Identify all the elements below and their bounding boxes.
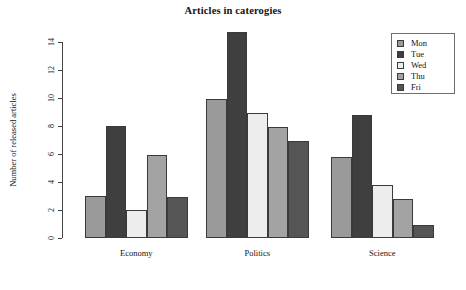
legend-label: Tue <box>411 49 424 60</box>
bar-chart: Articles in caterogies Number of release… <box>0 0 466 290</box>
bar <box>352 115 373 238</box>
chart-title: Articles in caterogies <box>0 5 466 16</box>
bar <box>247 113 268 238</box>
legend-label: Wed <box>411 60 426 71</box>
bar <box>206 99 227 238</box>
legend-label: Fri <box>411 82 421 93</box>
y-axis-tick-label: 12 <box>45 65 59 75</box>
bar <box>288 141 309 238</box>
legend: MonTueWedThuFri <box>391 33 455 94</box>
bar <box>331 157 352 238</box>
y-axis-tick-label: 2 <box>45 205 59 215</box>
legend-label: Thu <box>411 71 425 82</box>
legend-item-mon: Mon <box>397 38 453 49</box>
bar <box>126 210 147 238</box>
bar <box>167 197 188 238</box>
bar <box>268 127 289 238</box>
y-axis-title: Number of released articles <box>8 93 18 187</box>
y-axis-tick-label: 0 <box>45 233 59 243</box>
y-axis-tick-label: 6 <box>45 149 59 159</box>
bar <box>393 199 414 238</box>
legend-item-thu: Thu <box>397 71 453 82</box>
y-axis-tick-label: 8 <box>45 121 59 131</box>
y-axis-title-container: Number of released articles <box>4 42 22 238</box>
legend-item-wed: Wed <box>397 60 453 71</box>
bar <box>85 196 106 238</box>
legend-swatch-icon <box>397 40 404 47</box>
bar <box>147 155 168 238</box>
bar <box>413 225 434 238</box>
bar <box>227 32 248 238</box>
y-axis-tick-label: 4 <box>45 177 59 187</box>
x-axis-label-economy: Economy <box>96 248 176 258</box>
x-axis-label-politics: Politics <box>217 248 297 258</box>
bar <box>106 126 127 238</box>
y-axis-tick-label: 10 <box>45 93 59 103</box>
legend-swatch-icon <box>397 51 404 58</box>
legend-item-fri: Fri <box>397 82 453 93</box>
legend-swatch-icon <box>397 84 404 91</box>
legend-swatch-icon <box>397 73 404 80</box>
y-axis-tick-label: 14 <box>45 37 59 47</box>
legend-item-tue: Tue <box>397 49 453 60</box>
legend-label: Mon <box>411 38 427 49</box>
x-axis-label-science: Science <box>342 248 422 258</box>
legend-swatch-icon <box>397 62 404 69</box>
bar <box>372 185 393 238</box>
